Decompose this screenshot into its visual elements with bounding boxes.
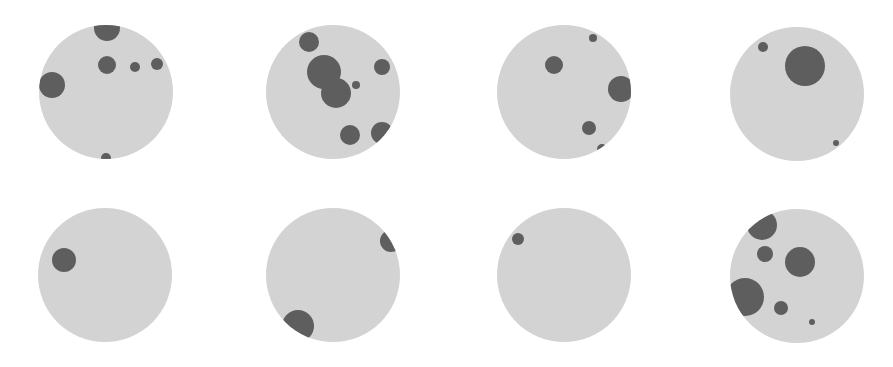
dark-blob: [352, 81, 360, 89]
dark-blob: [608, 76, 634, 102]
dark-blob: [282, 310, 314, 342]
phantom-grid: [0, 0, 893, 367]
dark-blob: [545, 56, 563, 74]
phantom-panel: [497, 208, 631, 342]
phantom-disk: [497, 208, 631, 342]
dark-blob: [774, 301, 788, 315]
dark-blob: [512, 233, 524, 245]
phantom-panel: [726, 209, 864, 343]
dark-blob: [101, 153, 111, 163]
dark-blob: [371, 122, 393, 144]
dark-blob: [758, 42, 768, 52]
dark-blob: [597, 144, 607, 154]
phantom-panel: [39, 15, 173, 163]
dark-blob: [726, 278, 764, 316]
phantom-disk: [730, 27, 864, 161]
phantom-disk: [38, 208, 172, 342]
dark-blob: [785, 46, 825, 86]
phantom-panel: [266, 208, 402, 342]
dark-blob: [52, 248, 76, 272]
dark-blob: [747, 210, 777, 240]
dark-blob: [809, 319, 815, 325]
dark-blob: [98, 56, 116, 74]
phantom-panel: [38, 208, 172, 342]
dark-blob: [130, 62, 140, 72]
dark-blob: [589, 34, 597, 42]
phantom-panel: [266, 25, 400, 159]
dark-blob: [299, 32, 319, 52]
dark-blob: [374, 59, 390, 75]
dark-blob: [94, 15, 120, 41]
dark-blob: [380, 230, 402, 252]
dark-blob: [321, 78, 351, 108]
dark-blob: [39, 72, 65, 98]
dark-blob: [340, 125, 360, 145]
dark-blob: [582, 121, 596, 135]
phantom-panel: [497, 25, 634, 159]
dark-blob: [833, 140, 839, 146]
dark-blob: [757, 246, 773, 262]
dark-blob: [151, 58, 163, 70]
phantom-panel: [730, 27, 864, 161]
dark-blob: [785, 247, 815, 277]
